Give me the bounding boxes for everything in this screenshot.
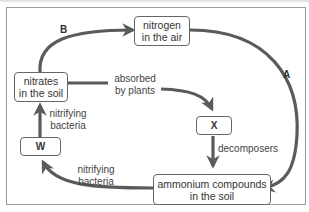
label-decomposers: decomposers: [218, 143, 278, 155]
node-nitrates-label: nitrates in the soil: [19, 75, 63, 99]
arrow-a: [190, 30, 297, 188]
node-x: X: [196, 116, 232, 135]
node-w: W: [20, 137, 61, 156]
node-w-label: W: [36, 141, 45, 153]
node-ammonium-label: ammonium compounds in the soil: [157, 178, 266, 202]
node-ammonium-compounds: ammonium compounds in the soil: [153, 174, 271, 205]
arrow-b: [40, 30, 133, 72]
node-nitrogen-in-air: nitrogen in the air: [134, 16, 190, 46]
label-nitrifying-bacteria-lower: nitrifying bacteria: [74, 164, 118, 187]
label-nitrifying-bacteria-upper: nitrifying bacteria: [46, 108, 90, 131]
node-nitrates-in-soil: nitrates in the soil: [14, 72, 68, 102]
nitrogen-cycle-diagram: nitrogen in the air nitrates in the soil…: [0, 0, 309, 212]
node-nitrogen-label: nitrogen in the air: [142, 19, 182, 43]
label-arrow-a: A: [283, 69, 290, 80]
label-absorbed-by-plants: absorbed by plants: [110, 73, 160, 96]
label-arrow-b: B: [60, 24, 67, 35]
node-x-label: X: [211, 120, 218, 132]
arrow-absorbed-to-x: [161, 89, 212, 109]
